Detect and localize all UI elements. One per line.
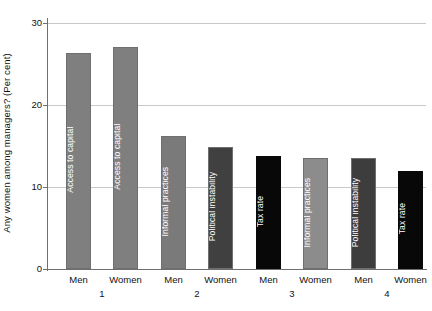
bar: Access to capital — [66, 53, 91, 269]
y-tick-mark — [43, 187, 47, 188]
x-tick-label: Men — [149, 274, 199, 285]
x-axis-line — [47, 269, 427, 270]
bar-label-text: Access to capital — [113, 124, 121, 190]
x-tick-label: Women — [196, 274, 246, 285]
y-tick-label: 30 — [18, 18, 42, 28]
y-tick-label: 10 — [18, 182, 42, 192]
x-tick-label: Women — [101, 274, 151, 285]
bar-label-text: Political instability — [351, 178, 359, 247]
bar-label: Political instability — [212, 172, 221, 241]
bar-label: Access to capital — [117, 124, 126, 190]
bar-label: Informal practices — [307, 178, 316, 248]
y-axis-title: Any women among managers? (Per cent) — [0, 8, 14, 278]
x-tick-label: Men — [339, 274, 389, 285]
y-tick-mark — [43, 105, 47, 106]
y-tick-label: 0 — [18, 264, 42, 274]
y-tick-mark — [43, 269, 47, 270]
bar-label-text: Informal practices — [161, 167, 169, 237]
x-tick-label: Men — [54, 274, 104, 285]
x-tick-label: Men — [244, 274, 294, 285]
bar-chart: Any women among managers? (Per cent) 010… — [0, 0, 432, 311]
y-tick-label: 20 — [18, 100, 42, 110]
bar-label: Access to capital — [70, 127, 79, 193]
bar-label: Political instability — [355, 178, 364, 247]
bar-label-text: Tax rate — [256, 196, 264, 227]
x-tick-label: Women — [291, 274, 341, 285]
plot-area: Access to capitalAccess to capitalInform… — [48, 20, 426, 269]
bar: Political instability — [208, 147, 233, 269]
group-number-label: 2 — [172, 288, 222, 299]
bar: Tax rate — [398, 171, 423, 269]
group-number-label: 3 — [267, 288, 317, 299]
bar-label: Tax rate — [260, 196, 269, 227]
x-tick-label: Women — [386, 274, 432, 285]
group-number-label: 4 — [362, 288, 412, 299]
bar: Tax rate — [256, 156, 281, 269]
bar-label-text: Tax rate — [398, 203, 406, 234]
bar-label: Tax rate — [402, 203, 411, 234]
bar-label: Informal practices — [165, 167, 174, 237]
group-number-label: 1 — [77, 288, 127, 299]
bar-label-text: Access to capital — [66, 127, 74, 193]
y-tick-mark — [43, 23, 47, 24]
bar: Political instability — [351, 158, 376, 269]
bar-label-text: Political instability — [208, 172, 216, 241]
bar: Access to capital — [113, 47, 138, 269]
bar-label-text: Informal practices — [303, 178, 311, 248]
bar: Informal practices — [161, 136, 186, 269]
bar: Informal practices — [303, 158, 328, 269]
